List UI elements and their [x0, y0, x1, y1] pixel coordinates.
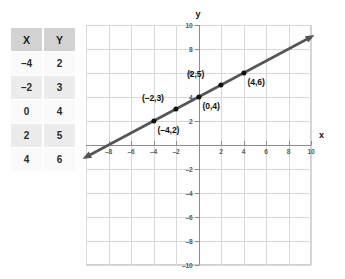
data-point-label: (–4,2) [158, 125, 180, 135]
cell-y: 4 [44, 100, 75, 123]
cell-x: –2 [11, 76, 42, 99]
x-axis-label: x [319, 130, 324, 140]
table-row: 46 [11, 148, 75, 171]
y-tick [195, 265, 199, 266]
figure-root: X Y –42–23042546 –8–6–4–2246810–10–8–6–4… [0, 0, 345, 279]
cell-y: 6 [44, 148, 75, 171]
data-point-label: (0,4) [203, 101, 220, 111]
cell-x: 2 [11, 124, 42, 147]
table-row: –42 [11, 52, 75, 75]
table-row: –23 [11, 76, 75, 99]
cell-y: 5 [44, 124, 75, 147]
line-graph [86, 25, 311, 265]
gridline-vertical [311, 25, 312, 265]
cell-x: –4 [11, 52, 42, 75]
column-header-y: Y [44, 28, 75, 51]
data-point-label: (2,5) [187, 69, 204, 79]
coordinate-plane: –8–6–4–2246810–10–8–6–4–2246810 (–4,2)(–… [86, 25, 311, 265]
xy-value-table: X Y –42–23042546 [9, 27, 77, 172]
cell-x: 4 [11, 148, 42, 171]
x-tick [311, 141, 312, 145]
cell-y: 3 [44, 76, 75, 99]
data-point-label: (4,6) [248, 77, 265, 87]
table-header-row: X Y [11, 28, 75, 51]
table-row: 04 [11, 100, 75, 123]
table-body: –42–23042546 [11, 52, 75, 171]
y-axis-label: y [196, 9, 201, 19]
table-row: 25 [11, 124, 75, 147]
cell-y: 2 [44, 52, 75, 75]
gridline-horizontal [86, 265, 311, 266]
cell-x: 0 [11, 100, 42, 123]
data-point-label: (–2,3) [142, 93, 164, 103]
column-header-x: X [11, 28, 42, 51]
